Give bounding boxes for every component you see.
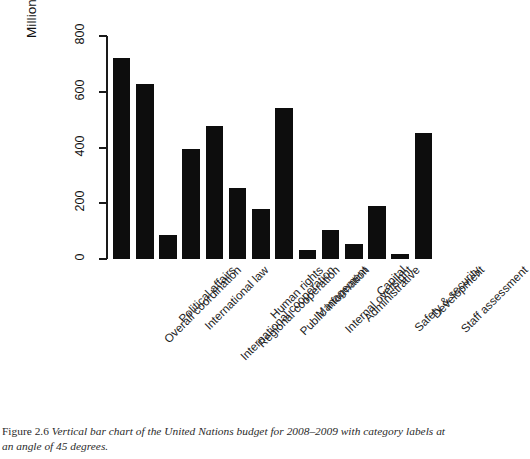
bar [345, 244, 363, 259]
x-axis-label: Political affairs [176, 263, 238, 325]
plot-area [110, 30, 435, 259]
y-axis-tick [99, 258, 107, 260]
bar [322, 230, 340, 259]
bar [206, 126, 224, 259]
y-axis-tick-label: 800 [73, 16, 87, 52]
bar [136, 84, 154, 259]
y-axis-title: Millions of US Dollars [24, 0, 42, 38]
bar [159, 235, 177, 259]
bar [252, 209, 270, 259]
y-axis-tick [99, 91, 107, 93]
figure-number: Figure 2.6 [2, 425, 49, 437]
y-axis-tick [99, 147, 107, 149]
bar [275, 108, 293, 259]
y-axis-tick [99, 202, 107, 204]
bar [229, 188, 247, 259]
bar [299, 250, 317, 259]
bar [415, 133, 433, 259]
figure-caption: Figure 2.6 Vertical bar chart of the Uni… [2, 424, 445, 453]
figure-caption-text: Vertical bar chart of the United Nations… [2, 425, 445, 452]
bar [182, 149, 200, 259]
y-axis-tick-label: 400 [73, 128, 87, 164]
x-axis-category-labels: Overall coordinationPolitical affairsInt… [110, 259, 440, 409]
y-axis-tick-label: 0 [73, 239, 87, 275]
y-axis-tick [99, 35, 107, 37]
y-axis-tick-label: 600 [73, 72, 87, 108]
bar-chart: Millions of US Dollars 0200400600800 Ove… [0, 0, 447, 410]
bar-series [110, 30, 435, 259]
bar [368, 206, 386, 259]
bar [113, 58, 131, 259]
y-axis-tick-label: 200 [73, 183, 87, 219]
